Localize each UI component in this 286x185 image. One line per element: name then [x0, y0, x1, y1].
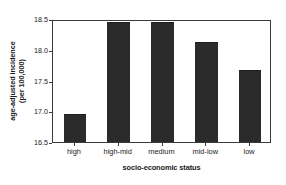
x-axis-tick-mark	[74, 143, 75, 146]
plot-area	[53, 21, 270, 142]
plot-frame	[52, 20, 271, 143]
x-axis-tick-mark	[118, 143, 119, 146]
bar	[107, 22, 130, 142]
x-axis-title: socio-economic status	[52, 163, 271, 172]
x-axis-tick-label: high	[67, 147, 81, 156]
x-axis-tick-mark	[205, 143, 206, 146]
y-axis-tick-label: 17.0	[26, 108, 48, 116]
y-axis-tick-label: 17.5	[26, 78, 48, 86]
bar	[151, 22, 174, 142]
bar	[239, 70, 262, 142]
y-axis-title-line-1: age-adjusted incidence	[8, 41, 17, 121]
x-axis-tick-label: medium	[148, 147, 174, 156]
x-axis-tick-mark	[162, 143, 163, 146]
y-axis-tick-label: 18.0	[26, 47, 48, 55]
y-axis-tick-label: 18.5	[26, 16, 48, 24]
bar-chart-figure: age-adjusted incidence (per 100,000) 16.…	[0, 0, 286, 185]
x-axis-tick-mark	[249, 143, 250, 146]
x-axis-tick-label: mid-low	[193, 147, 218, 156]
x-axis-tick-labels: highhigh-midmediummid-lowlow	[52, 147, 271, 159]
y-axis-tick-label: 16.5	[26, 139, 48, 147]
bar	[64, 114, 87, 142]
x-axis-tick-label: low	[244, 147, 255, 156]
bar	[195, 42, 218, 142]
y-axis-tick-labels: 16.517.017.518.018.5	[24, 0, 48, 185]
x-axis-tick-label: high-mid	[104, 147, 132, 156]
